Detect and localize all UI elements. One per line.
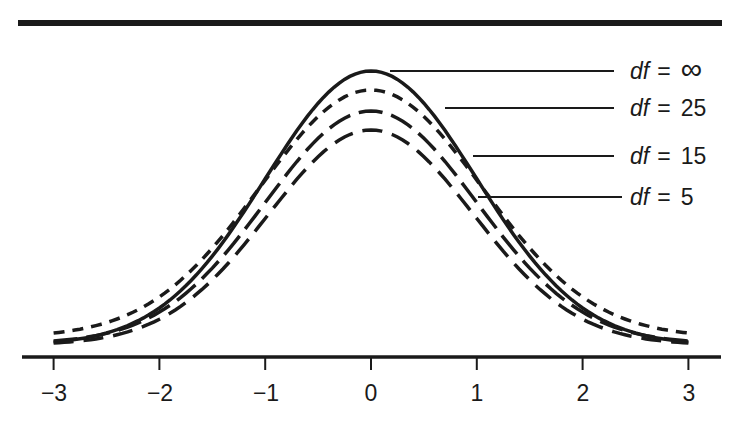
x-axis-ticks <box>54 357 689 370</box>
legend-label-df-infinity: df=∞ <box>630 52 702 85</box>
tick-label: 3 <box>683 380 696 406</box>
tick-label: 1 <box>471 380 484 406</box>
t-distribution-chart: df=∞ df=25 df=15 df=5 −3 −2 −1 0 1 2 3 <box>0 0 738 431</box>
curve-df-15 <box>54 111 689 341</box>
tick-label: −2 <box>147 380 173 406</box>
curve-df-5 <box>54 130 689 343</box>
top-rule <box>18 20 722 26</box>
tick-label: 2 <box>577 380 590 406</box>
legend-label-df-15: df=15 <box>630 143 706 169</box>
curves <box>54 71 689 343</box>
tick-label: −3 <box>41 380 67 406</box>
legend: df=∞ df=25 df=15 df=5 <box>630 52 706 210</box>
tick-label: 0 <box>365 380 378 406</box>
legend-label-df-5: df=5 <box>630 184 693 210</box>
tick-label: −1 <box>253 380 279 406</box>
legend-label-df-25: df=25 <box>630 95 706 121</box>
leader-lines <box>390 71 622 197</box>
x-axis-tick-labels: −3 −2 −1 0 1 2 3 <box>41 380 696 406</box>
curve-df-25 <box>54 90 689 333</box>
